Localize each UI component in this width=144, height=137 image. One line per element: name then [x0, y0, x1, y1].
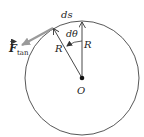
ds-label: ds — [61, 9, 73, 20]
force-label-sub: tan — [17, 49, 29, 57]
origin-dot — [80, 76, 85, 81]
origin-label: O — [77, 85, 85, 96]
radius-vertical-label: R — [83, 39, 92, 50]
dtheta-label: dθ — [66, 28, 78, 39]
circle-diagram: ds dθ R R O F tan — [0, 0, 144, 137]
radius-slanted-label: R — [54, 43, 63, 54]
dtheta-arc-arrow — [67, 41, 82, 46]
